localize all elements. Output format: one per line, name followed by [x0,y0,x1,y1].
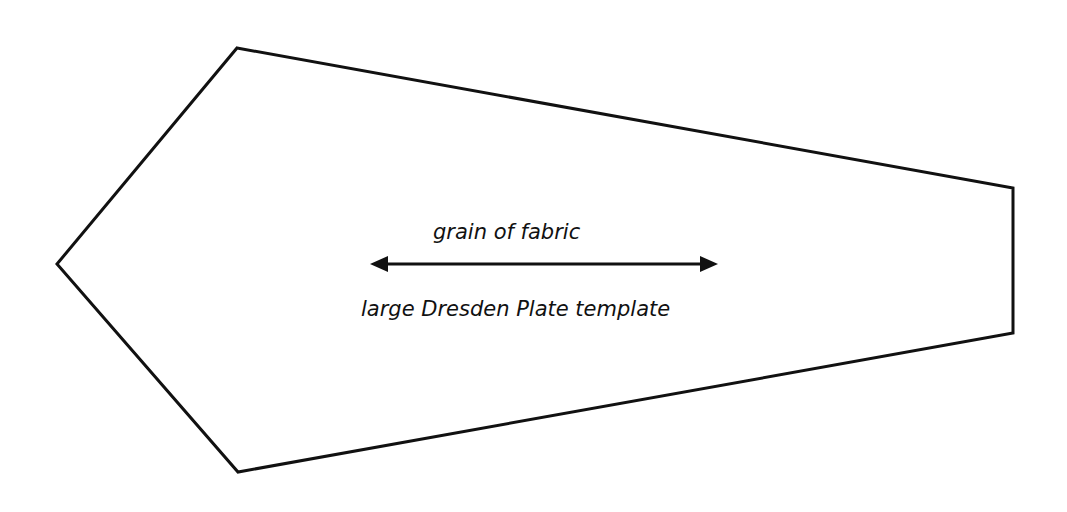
arrow-head-left-icon [370,256,388,272]
template-title-label: large Dresden Plate template [361,297,670,321]
grain-of-fabric-label: grain of fabric [433,220,580,244]
grain-arrow [370,256,718,272]
dresden-plate-wedge-outline [57,48,1013,472]
template-diagram [0,0,1067,512]
arrow-head-right-icon [700,256,718,272]
